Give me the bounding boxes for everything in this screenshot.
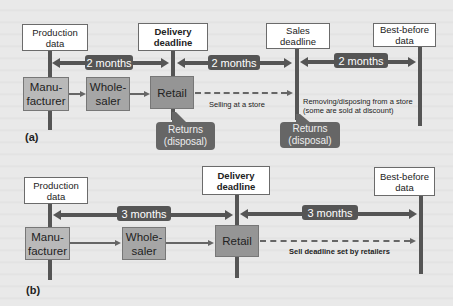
wholesaler-node-a: Whole-saler (86, 77, 130, 111)
interval-label-2-a: 2 months (208, 55, 260, 70)
node-text: facturer (28, 244, 67, 258)
returns-box-1-a: Returns(disposal) (156, 122, 215, 150)
returns-text: Returns (164, 124, 207, 136)
node-text: Whole- (126, 230, 162, 244)
milestone-text: data (32, 38, 77, 49)
arrow-left-icon (53, 210, 61, 220)
milestone-text: Best-before (380, 171, 429, 182)
returns-box-2-a: Returns(disposal) (280, 122, 340, 148)
bestbefore-date-box-a: Best-beforedata (373, 23, 436, 47)
manufacturer-node-a: Manu-facturer (23, 77, 69, 111)
panel-label-b: (b) (26, 284, 40, 296)
selling-dashed-arrow-a (195, 92, 287, 94)
returns-text: Returns (288, 123, 331, 135)
arrow-right-icon (208, 240, 214, 246)
arrow-left-icon (240, 209, 248, 219)
bestbefore-line-a (418, 46, 422, 126)
arrow-right-icon (408, 57, 416, 67)
arrow-right-icon (225, 210, 233, 220)
interval-label-3-a: 2 months (334, 53, 388, 68)
sales-deadline-box-a: Salesdeadline (266, 23, 330, 49)
arrow-right-icon (161, 58, 169, 68)
returns-text: (disposal) (164, 136, 207, 148)
bestbefore-date-box-b: Best-beforedata (374, 167, 435, 196)
sell-deadline-dashed-arrow-b (260, 240, 410, 242)
returns-text: (disposal) (288, 135, 331, 147)
node-text: Retail (222, 234, 251, 248)
milestone-text: deadline (154, 37, 193, 48)
node-text: Retail (157, 86, 186, 100)
milestone-text: Production (33, 180, 78, 191)
production-date-box-a: Productiondata (22, 24, 88, 51)
removing-note-a-line2: (some are sold at discount) (303, 106, 393, 115)
node-text: Manu- (27, 80, 66, 94)
milestone-text: Best-before (380, 24, 429, 35)
retail-node-b: Retail (215, 225, 259, 257)
milestone-text: Delivery (217, 170, 256, 181)
interval-label-1-b: 3 months (117, 206, 171, 221)
milestone-text: data (33, 191, 78, 202)
interval-label-1-a: 2 months (85, 55, 133, 70)
production-date-box-b: Productiondata (24, 177, 88, 204)
arrow-right-icon (410, 238, 416, 244)
delivery-deadline-box-b: Deliverydeadline (202, 166, 270, 195)
removing-note-a-line1: Removing/disposing from a store (303, 97, 413, 106)
arrow-left-icon (177, 58, 185, 68)
sales-line-a (295, 48, 299, 120)
panel-label-a: (a) (25, 131, 38, 143)
arrow-left-icon (52, 58, 60, 68)
flow-arrow-b-1 (70, 242, 116, 244)
delivery-deadline-box-a: Deliverydeadline (138, 23, 208, 51)
bestbefore-line-b (419, 196, 423, 274)
wholesaler-node-b: Whole-saler (122, 227, 166, 260)
arrow-right-icon (115, 240, 121, 246)
node-text: facturer (27, 94, 66, 108)
milestone-text: deadline (217, 181, 256, 192)
sell-deadline-note-b: Sell deadline set by retailers (289, 247, 390, 256)
manufacturer-node-b: Manu-facturer (25, 227, 70, 260)
milestone-text: Production (32, 27, 77, 38)
arrow-left-icon (300, 57, 308, 67)
milestone-text: data (380, 35, 429, 46)
node-text: Whole- (90, 80, 126, 94)
milestone-text: deadline (280, 36, 316, 47)
arrow-right-icon (409, 209, 417, 219)
retail-node-a: Retail (150, 76, 194, 109)
milestone-text: Delivery (154, 26, 193, 37)
flow-arrow-b-2 (166, 242, 208, 244)
arrow-right-icon (287, 90, 293, 96)
interval-label-2-b: 3 months (302, 205, 358, 220)
selling-note-a: Selling at a store (209, 100, 265, 109)
milestone-text: Sales (280, 25, 316, 36)
node-text: saler (126, 244, 162, 258)
node-text: Manu- (28, 230, 67, 244)
flow-arrow-a-2 (130, 93, 144, 95)
arrow-right-icon (284, 58, 292, 68)
node-text: saler (90, 94, 126, 108)
milestone-text: data (380, 182, 429, 193)
